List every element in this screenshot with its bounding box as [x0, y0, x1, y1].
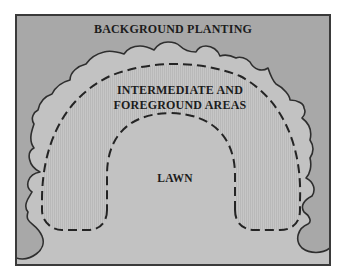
background-planting-label: BACKGROUND PLANTING: [16, 22, 330, 37]
landscape-zones-diagram: BACKGROUND PLANTING INTERMEDIATE AND FOR…: [0, 0, 344, 277]
intermediate-label-line2: FOREGROUND AREAS: [60, 98, 300, 113]
intermediate-foreground-label: INTERMEDIATE AND FOREGROUND AREAS: [60, 83, 300, 113]
lawn-label: LAWN: [120, 172, 230, 184]
intermediate-label-line1: INTERMEDIATE AND: [60, 83, 300, 98]
diagram-canvas: [0, 0, 344, 277]
